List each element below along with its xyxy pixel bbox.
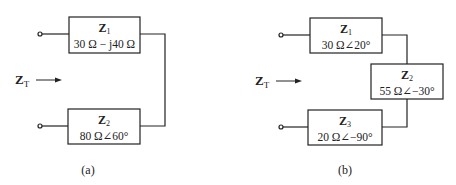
diagram-a-terminal-top <box>38 32 42 36</box>
diagram-a-caption: (a) <box>81 163 94 177</box>
diagram-a-z2-value: 80 Ω∠60° <box>80 130 129 142</box>
circuit-diagrams: ZT Z1 30 Ω − j40 Ω Z2 80 Ω∠60° (a) ZT Z1… <box>0 0 456 185</box>
diagram-b-terminal-top <box>279 33 283 37</box>
diagram-b-terminal-bottom <box>279 125 283 129</box>
diagram-a-zt-label: ZT <box>15 72 30 89</box>
diagram-b-zt-label: ZT <box>255 73 270 90</box>
diagram-b-z1-value: 30 Ω∠20° <box>322 39 371 51</box>
diagram-a-z1-value: 30 Ω − j40 Ω <box>74 38 135 51</box>
diagram-b-caption: (b) <box>338 163 352 177</box>
diagram-b-z3-value: 20 Ω∠−90° <box>317 131 373 143</box>
diagram-a-terminal-bottom <box>38 124 42 128</box>
diagram-a-arrow-icon <box>36 78 62 83</box>
diagram-b-arrow-icon <box>276 79 302 84</box>
diagram-b-z2-value: 55 Ω∠−30° <box>379 85 435 97</box>
